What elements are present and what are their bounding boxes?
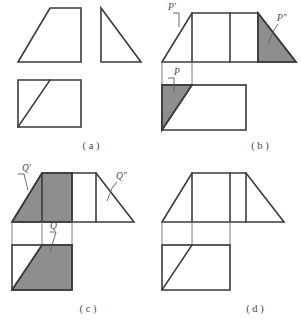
panel-d-upper-outline bbox=[162, 173, 284, 222]
panel-a-square-diagonal bbox=[18, 80, 50, 127]
panel-a-trapezoid bbox=[18, 8, 81, 62]
panel-a-square bbox=[18, 80, 81, 127]
panel-d-caption: ( d ) bbox=[246, 303, 264, 315]
panel-b: P′ P″ P ( b ) bbox=[150, 0, 301, 164]
panel-b-caption: ( b ) bbox=[251, 140, 269, 152]
panel-c: Q′ Q″ Q ( c ) bbox=[0, 160, 150, 328]
panel-b-leader-p-prime bbox=[173, 13, 179, 27]
panel-c-projection-band bbox=[12, 222, 72, 245]
panel-d: ( d ) bbox=[150, 160, 301, 328]
panel-d-projection-band bbox=[162, 222, 230, 245]
panel-c-caption: ( c ) bbox=[80, 303, 97, 315]
panel-d-lower-square bbox=[162, 245, 230, 290]
panel-b-label-p: P bbox=[173, 67, 180, 77]
panel-c-label-q-prime: Q′ bbox=[22, 163, 32, 173]
panel-c-leader-q-prime bbox=[18, 174, 28, 190]
panel-a: ( a ) bbox=[0, 0, 150, 164]
panel-b-label-p-prime: P′ bbox=[167, 2, 177, 12]
panel-a-triangle bbox=[101, 8, 141, 62]
panel-b-label-p-double-prime: P″ bbox=[276, 13, 288, 23]
panel-a-caption: ( a ) bbox=[83, 140, 100, 152]
panel-d-lower-diagonal bbox=[162, 245, 192, 290]
panel-c-label-q: Q bbox=[50, 221, 57, 231]
figure-root: ( a ) P′ P″ P ( b ) bbox=[0, 0, 301, 328]
panel-c-shaded-region-lower bbox=[12, 245, 72, 290]
panel-c-label-q-double-prime: Q″ bbox=[116, 171, 128, 181]
